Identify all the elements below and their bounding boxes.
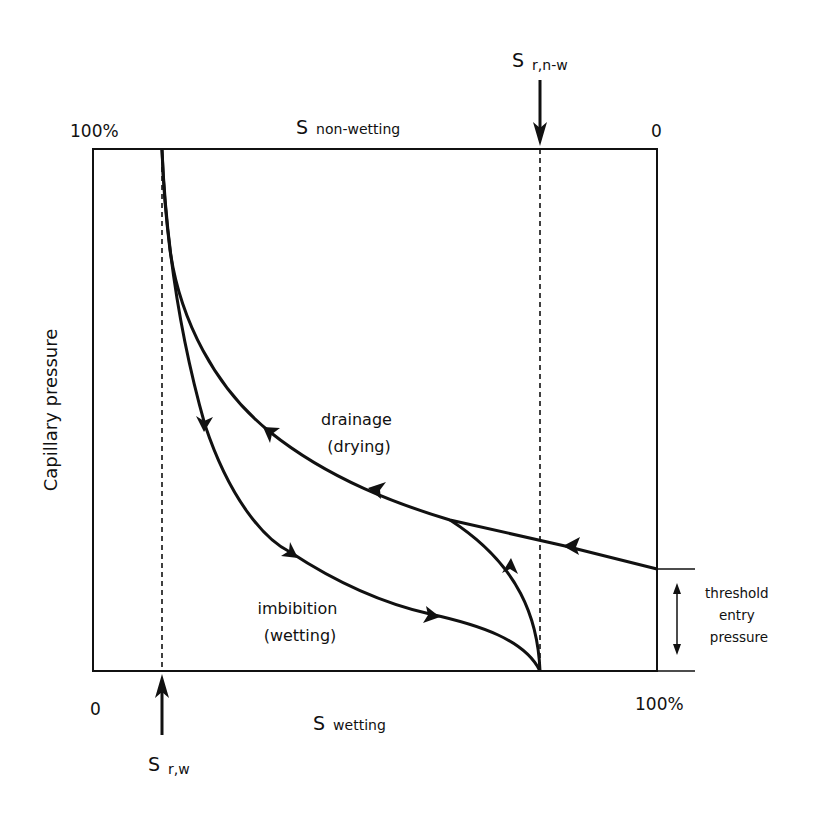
bottom-axis-right-value: 100% (635, 694, 684, 714)
y-axis-label: Capillary pressure (40, 329, 61, 492)
top-axis-right-value: 0 (651, 121, 662, 141)
residual-wetting-label: S r,w (148, 753, 190, 777)
residual-nonwetting-label: S r,n-w (512, 49, 568, 73)
bottom-axis-left-value: 0 (90, 699, 101, 719)
residual-nonwetting-arrow-icon (533, 80, 547, 146)
threshold-entry-pressure-label: threshold entry pressure (705, 585, 773, 645)
scanning-drainage-curve (450, 520, 540, 671)
top-axis-label: S non-wetting (296, 116, 400, 138)
drainage-label: drainage (drying) (321, 410, 397, 456)
capillary-pressure-diagram: 100% 0 S non-wetting S r,n-w 0 100% S we… (0, 0, 820, 814)
residual-wetting-arrow-icon (155, 674, 169, 735)
threshold-double-arrow-icon (673, 583, 681, 655)
arrow-upleft-icon (263, 427, 280, 443)
arrow-left-icon (563, 537, 580, 555)
bottom-axis-label: S wetting (313, 712, 386, 734)
imbibition-label: imbibition (wetting) (258, 599, 343, 645)
drainage-curve (162, 150, 657, 569)
top-axis-left-value: 100% (70, 121, 119, 141)
